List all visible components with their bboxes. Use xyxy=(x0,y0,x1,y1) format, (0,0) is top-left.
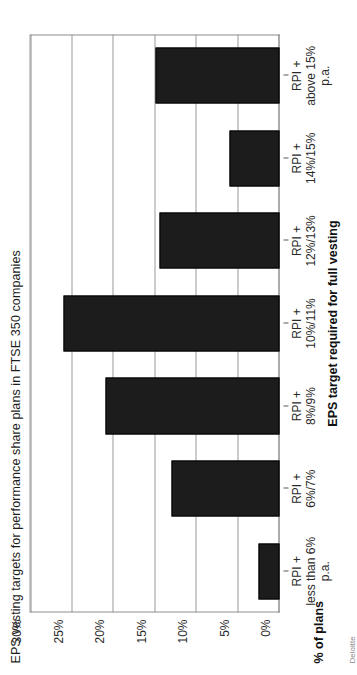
chart-title: EPS vesting targets for performance shar… xyxy=(8,250,22,663)
x-axis-tick-label-line: RPI + xyxy=(289,364,303,447)
x-axis-tick-mark xyxy=(283,157,288,158)
y-axis-tick-label: 15% xyxy=(134,619,148,643)
x-axis-tick-label-line: above 15% xyxy=(303,34,317,117)
bar-slot xyxy=(30,117,279,200)
bar-series xyxy=(30,34,279,612)
y-axis-tick-label: 25% xyxy=(51,619,65,643)
y-axis-tick-label: 10% xyxy=(175,619,189,643)
x-axis-tick-mark xyxy=(283,74,288,75)
x-axis-tick-mark xyxy=(283,405,288,406)
x-axis-tick-label: RPI +8%/9% xyxy=(283,364,331,447)
bar-slot xyxy=(30,364,279,447)
x-axis-title: EPS target required for full vesting xyxy=(325,34,339,612)
bar xyxy=(155,47,280,103)
x-axis-tick-label-line: RPI + xyxy=(289,282,303,365)
x-axis-tick-label-line: RPI + xyxy=(289,199,303,282)
x-axis-tick-label: RPI +less than 6%p.a. xyxy=(283,529,331,612)
bar xyxy=(229,130,279,186)
x-axis-category-labels: RPI +less than 6%p.a.RPI +6%/7%RPI +8%/9… xyxy=(283,34,331,612)
x-axis-tick-mark xyxy=(283,239,288,240)
x-axis-tick-label-line: RPI + xyxy=(289,117,303,200)
x-axis-tick-label-line: 8%/9% xyxy=(303,364,317,447)
x-axis-tick-label: RPI +14%/15% xyxy=(283,117,331,200)
source-note: Deloitte xyxy=(347,636,356,663)
bar-slot xyxy=(30,34,279,117)
rotated-figure-wrapper: EPS vesting targets for performance shar… xyxy=(0,0,357,675)
bar-slot xyxy=(30,529,279,612)
x-axis-tick-label: RPI +6%/7% xyxy=(283,447,331,530)
x-axis-tick-mark xyxy=(283,487,288,488)
bar xyxy=(258,543,279,599)
x-axis-tick-label-line: 12%/13% xyxy=(303,199,317,282)
bar-slot xyxy=(30,447,279,530)
y-axis-tick-label: 5% xyxy=(217,619,231,636)
x-axis-tick-label-line: 14%/15% xyxy=(303,117,317,200)
bar xyxy=(63,295,279,351)
x-axis-tick-label: RPI +10%/11% xyxy=(283,282,331,365)
bar xyxy=(171,460,279,516)
x-axis-tick-mark xyxy=(283,570,288,571)
x-axis-tick-label-line: RPI + xyxy=(289,34,303,117)
y-axis-tick-label: 30% xyxy=(9,619,23,643)
y-axis-tick-label: 0% xyxy=(258,619,272,636)
x-axis-tick-label-line: 6%/7% xyxy=(303,447,317,530)
x-axis-tick-label-line: RPI + xyxy=(289,529,303,612)
x-axis-tick-label-line: RPI + xyxy=(289,447,303,530)
x-axis-tick-label: RPI +12%/13% xyxy=(283,199,331,282)
chart-figure: EPS vesting targets for performance shar… xyxy=(0,0,357,675)
x-axis-tick-mark xyxy=(283,322,288,323)
bar-slot xyxy=(30,282,279,365)
bar xyxy=(159,212,279,268)
bar xyxy=(105,377,279,433)
x-axis-tick-label: RPI +above 15%p.a. xyxy=(283,34,331,117)
x-axis-tick-label-line: less than 6% xyxy=(303,529,317,612)
bar-slot xyxy=(30,199,279,282)
x-axis-tick-label-line: 10%/11% xyxy=(303,282,317,365)
plot-area: 0%5%10%15%20%25%30% xyxy=(30,34,279,612)
y-axis-tick-label: 20% xyxy=(92,619,106,643)
